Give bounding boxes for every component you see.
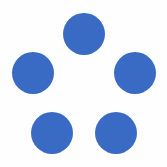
dot-top — [63, 13, 105, 55]
dot-bottom-left — [31, 112, 73, 154]
dot-bottom-right — [95, 112, 137, 154]
dot-middle-left — [12, 52, 54, 94]
dot-diagram — [0, 0, 167, 167]
dot-middle-right — [114, 52, 156, 94]
